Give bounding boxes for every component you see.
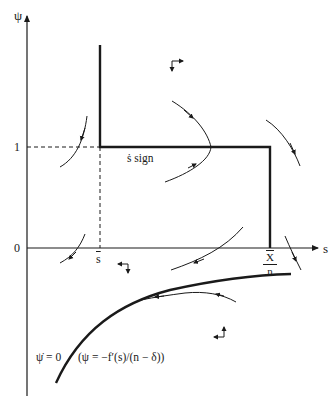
trajectory-arrow-icon	[292, 252, 296, 261]
s-dot-zero-locus	[100, 45, 270, 248]
trajectory-arrow-icon	[81, 128, 85, 140]
trajectory-arrow-icon	[184, 110, 193, 118]
s-axis-label: s	[323, 242, 328, 255]
trajectory-arrow-icon	[290, 143, 295, 154]
tick-label-s-bar: s	[96, 253, 101, 265]
s-dot-sign-annotation: ṡ sign	[127, 153, 154, 165]
direction-arrows-middle-icon	[118, 264, 128, 273]
psi-dot-zero-formula: (ψ = −f′(s)/(n − δ))	[78, 352, 164, 364]
psi-dot-zero-locus	[56, 274, 291, 383]
direction-arrows-upper-icon	[172, 61, 183, 71]
trajectory-arrow-icon	[155, 296, 164, 297]
trajectory-arrow-icon	[194, 259, 204, 263]
tick-label-x-over-n: X n	[263, 252, 277, 277]
fraction-numerator: X	[263, 252, 277, 265]
fraction-denominator: n	[263, 265, 277, 277]
tick-label-one: 1	[14, 141, 20, 153]
tick-label-zero: 0	[14, 242, 20, 254]
phase-diagram	[0, 0, 335, 408]
direction-arrows-lower-icon	[214, 327, 224, 337]
psi-dot-zero-label: ψ̇ = 0	[36, 352, 61, 364]
psi-axis-label: ψ	[14, 9, 22, 22]
trajectory-lower-right	[285, 236, 301, 270]
trajectory-upper-left	[60, 116, 87, 167]
